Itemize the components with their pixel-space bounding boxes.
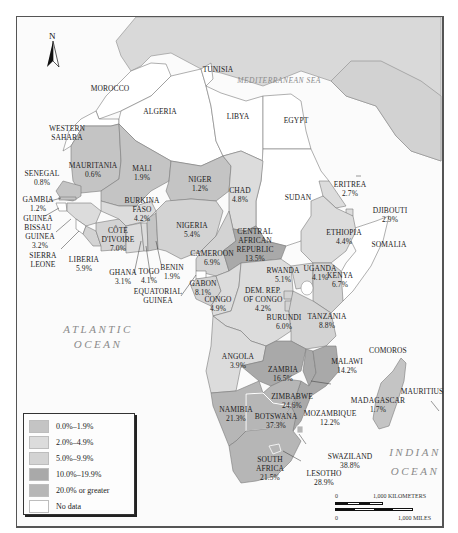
label-mauritania: MAURITANIA0.6%	[69, 161, 118, 179]
legend-label: No data	[56, 502, 81, 511]
label-angola: ANGOLA3.9%	[222, 352, 254, 370]
north-arrow: N	[45, 31, 61, 67]
label-burundi: BURUNDI6.0%	[267, 313, 302, 331]
scale-km-bar	[335, 502, 383, 505]
label-namibia: NAMIBIA21.3%	[219, 405, 253, 423]
indian-ocean-label: INDIAN OCEAN	[389, 445, 441, 479]
legend-label: 2.0%–4.9%	[56, 438, 93, 447]
label-zambia: ZAMBIA16.5%	[268, 365, 298, 383]
label-burkina-faso: BURKINAFASO4.2%	[125, 196, 160, 223]
label-chad: CHAD4.8%	[229, 186, 251, 204]
label-drc: DEM. REP.OF CONGO4.2%	[244, 286, 283, 313]
indian-label-line1: INDIAN	[389, 445, 441, 460]
label-zimbabwe: ZIMBABWE24.6%	[271, 392, 313, 410]
label-mozambique: MOZAMBIQUE12.2%	[304, 409, 357, 427]
legend-label: 0.0%–1.9%	[56, 422, 93, 431]
atlantic-ocean-label: ATLANTIC OCEAN	[63, 322, 133, 352]
label-tanzania: TANZANIA8.8%	[308, 312, 347, 330]
legend-item: 2.0%–4.9%	[29, 434, 134, 450]
label-senegal: SENEGAL0.8%	[25, 169, 60, 187]
guinea-bissau-shape	[56, 203, 67, 211]
label-morocco: MOROCCO	[91, 84, 130, 93]
label-guinea-bissau: GUINEABISSAU	[23, 214, 52, 232]
label-madagascar: MADAGASCAR1.7%	[351, 396, 405, 414]
label-gambia: GAMBIA1.2%	[22, 195, 53, 213]
label-congo: CONGO4.9%	[204, 295, 231, 313]
label-guinea: GUINEA3.2%	[25, 232, 54, 250]
legend-label: 5.0%–9.9%	[56, 454, 93, 463]
label-lesotho: LESOTHO28.9%	[307, 469, 342, 487]
legend-swatch	[29, 452, 49, 465]
label-somalia: SOMALIA	[372, 240, 407, 249]
label-mauritius: MAURITIUS	[401, 387, 444, 396]
scale-km-zero: 0	[335, 493, 338, 499]
label-djibouti: DJIBOUTI2.9%	[373, 206, 408, 224]
label-nigeria: NIGERIA5.4%	[176, 221, 208, 239]
legend-swatch	[29, 436, 49, 449]
atlantic-label-line1: ATLANTIC	[63, 322, 133, 337]
label-kenya: KENYA6.7%	[327, 271, 353, 289]
label-libya: LIBYA	[227, 112, 250, 121]
scale-mi-label: 1,000 MILES	[398, 515, 431, 521]
label-sierra-leone: SIERRALEONE	[29, 251, 56, 269]
label-swaziland: SWAZILAND38.8%	[328, 452, 373, 470]
label-algeria: ALGERIA	[143, 107, 177, 116]
legend-swatch	[29, 420, 49, 433]
label-botswana: BOTSWANA37.3%	[255, 412, 297, 430]
label-rwanda: RWANDA5.1%	[266, 266, 299, 284]
label-liberia: LIBERIA5.9%	[69, 255, 99, 273]
label-cote-divoire: CÔTED'IVOIRE7.0%	[102, 226, 135, 253]
label-ghana: GHANA3.1%	[109, 268, 137, 286]
legend-item: 20.0% or greater	[29, 482, 134, 498]
swaziland-shape	[297, 426, 303, 433]
scale-km-label: 1,000 KILOMETERS	[373, 493, 426, 499]
legend-item: 5.0%–9.9%	[29, 450, 134, 466]
map-legend: 0.0%–1.9% 2.0%–4.9% 5.0%–9.9% 10.0%–19.9…	[23, 413, 135, 515]
label-comoros: COMOROS	[369, 346, 407, 355]
gambia-shape	[59, 197, 76, 200]
atlantic-label-line2: OCEAN	[63, 337, 133, 352]
legend-swatch	[29, 500, 49, 513]
label-south-africa: SOUTHAFRICA21.5%	[256, 455, 284, 482]
scale-mi-bar	[335, 508, 413, 511]
scale-bar: 0 1,000 KILOMETERS 0 1,000 MILES	[335, 493, 440, 523]
label-equatorial-guinea: EQUATORIALGUINEA	[134, 287, 182, 305]
label-niger: NIGER1.2%	[188, 175, 211, 193]
label-western-sahara: WESTERNSAHARA	[49, 124, 85, 142]
guinea-shape	[67, 203, 101, 226]
label-sudan: SUDAN	[285, 193, 311, 202]
legend-swatch	[29, 484, 49, 497]
legend-item: No data	[29, 498, 134, 514]
north-arrow-icon	[45, 41, 61, 71]
indian-label-line2: OCEAN	[389, 464, 441, 479]
legend-label: 20.0% or greater	[56, 486, 110, 495]
label-togo: TOGO4.1%	[138, 267, 159, 285]
north-label: N	[49, 31, 56, 41]
lake-victoria-shape	[301, 281, 313, 295]
label-benin: BENIN1.9%	[160, 263, 183, 281]
label-cameroon: CAMEROON6.9%	[190, 249, 234, 267]
mediterranean-sea-label: MEDITERRANEAN SEA	[237, 76, 321, 85]
legend-label: 10.0%–19.9%	[56, 470, 101, 479]
label-eritrea: ERITREA2.7%	[334, 180, 366, 198]
legend-swatch	[29, 468, 49, 481]
label-ethiopia: ETHIOPIA4.4%	[326, 228, 361, 246]
label-malawi: MALAWI14.2%	[331, 357, 363, 375]
label-egypt: EGYPT	[284, 116, 309, 125]
scale-mi-zero: 0	[335, 515, 338, 521]
label-mali: MALI1.9%	[132, 164, 152, 182]
legend-item: 0.0%–1.9%	[29, 418, 134, 434]
label-central-african-republic: CENTRALAFRICANREPUBLIC13.5%	[236, 227, 273, 263]
label-tunisia: TUNISIA	[203, 65, 234, 74]
legend-item: 10.0%–19.9%	[29, 466, 134, 482]
